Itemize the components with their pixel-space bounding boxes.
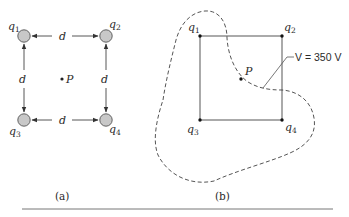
label-b-q3: q3 [187,123,199,137]
panel-a: q1 q2 q3 q4 d d d d P (a) [8,18,121,202]
charge-q3 [18,114,30,126]
equipotential-surface [155,11,314,182]
caption-b: (b) [215,190,230,202]
distance-label-top: d [59,30,66,43]
label-q1: q1 [8,20,20,34]
equipotential-leader-line [263,57,294,88]
figure-canvas: q1 q2 q3 q4 d d d d P (a) q1 q2 q3 q4 P [0,0,349,217]
distance-label-bottom: d [59,114,66,127]
label-b-q4: q4 [285,121,297,135]
charge-q3-point [198,118,201,121]
panel-b: q1 q2 q3 q4 P V = 350 V (b) [155,11,341,202]
label-q4: q4 [109,123,121,137]
charge-q4-point [280,118,283,121]
equipotential-value-label: V = 350 V [295,51,341,63]
distance-label-right: d [101,73,108,86]
label-b-q1: q1 [188,21,200,35]
label-q3: q3 [9,125,21,139]
point-p-dot [60,77,63,80]
distance-label-left: d [19,73,26,86]
charge-q2-point [280,34,283,37]
point-p-b-dot [239,77,242,80]
caption-a: (a) [55,190,69,202]
point-p-b-label: P [244,65,253,78]
label-q2: q2 [109,18,121,32]
charge-q2 [100,30,112,42]
point-p-label: P [65,73,74,86]
label-b-q2: q2 [284,21,296,35]
